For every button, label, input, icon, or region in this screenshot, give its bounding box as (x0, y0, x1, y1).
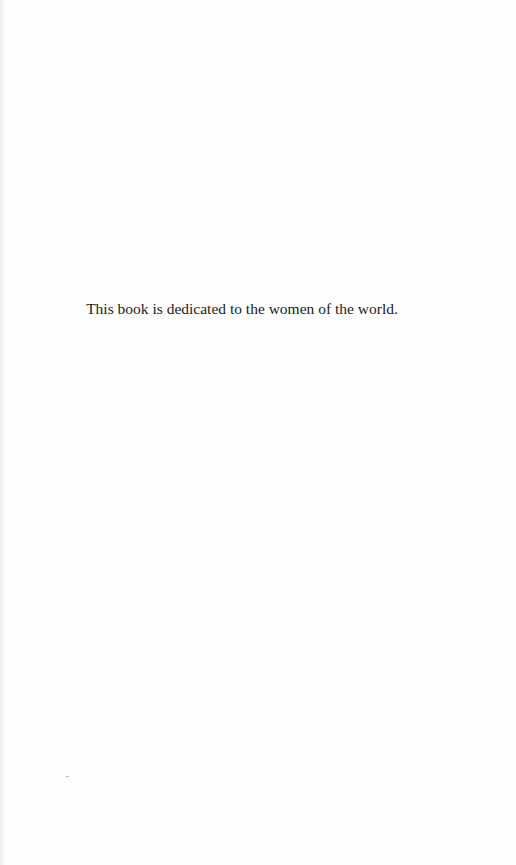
scan-speck (66, 776, 69, 777)
dedication-text: This book is dedicated to the women of t… (0, 299, 484, 319)
page-edge-shadow (0, 0, 6, 865)
document-page: This book is dedicated to the women of t… (0, 0, 516, 865)
